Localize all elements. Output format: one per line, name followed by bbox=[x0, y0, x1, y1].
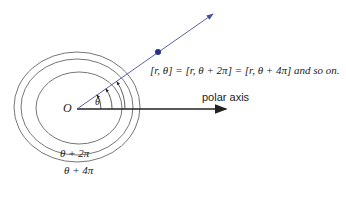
origin-label: O bbox=[63, 101, 72, 116]
circle-label-2pi: θ + 2π bbox=[60, 147, 89, 159]
polar-diagram bbox=[0, 0, 346, 197]
theta-label: θ bbox=[95, 96, 100, 107]
middle-circle bbox=[21, 59, 133, 155]
angle-arc-2 bbox=[106, 89, 112, 109]
equation-label: [r, θ] = [r, θ + 2π] = [r, θ + 4π] and s… bbox=[150, 64, 340, 76]
equation-text: [r, θ] = [r, θ + 2π] = [r, θ + 4π] and s… bbox=[150, 64, 340, 76]
angle-arc-3 bbox=[117, 82, 125, 109]
polar-axis-label: polar axis bbox=[202, 91, 249, 103]
point-marker bbox=[155, 49, 161, 55]
circle-label-4pi: θ + 4π bbox=[64, 164, 93, 176]
ray bbox=[77, 14, 213, 109]
outer-circle bbox=[14, 52, 140, 162]
